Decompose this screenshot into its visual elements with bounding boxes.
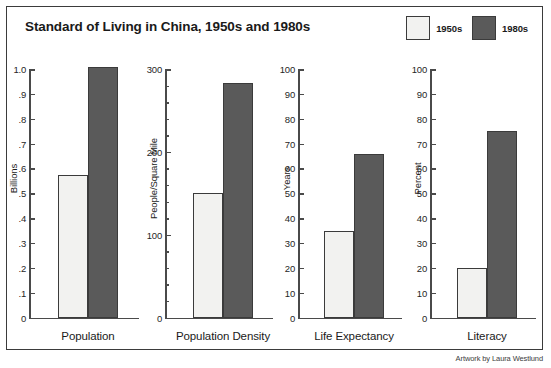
y-tick-label: 30 [417, 237, 427, 248]
category-label: Literacy [427, 330, 547, 343]
y-tick-label: 70 [285, 138, 295, 149]
bar-1950s [58, 175, 88, 318]
x-axis-line [165, 318, 273, 320]
plot-area: 1009080706050403020100 [298, 69, 402, 319]
artwork-credit: Artwork by Laura Westlund [456, 354, 543, 363]
bar-1950s [193, 193, 223, 317]
y-tick-label: 90 [417, 88, 427, 99]
y-tick-label: 40 [417, 213, 427, 224]
bar-1980s [223, 83, 253, 317]
x-axis-line [29, 318, 139, 320]
y-tick-label: 1.0 [13, 64, 26, 75]
y-tick-label: 0 [290, 312, 295, 323]
chart-panel-literacy: Percent 1009080706050403020100 Literacy [410, 49, 544, 349]
y-tick-label: .6 [18, 163, 26, 174]
y-tick-label: .8 [18, 113, 26, 124]
y-tick-label: 80 [285, 113, 295, 124]
bar-group [298, 69, 402, 318]
y-tick-label: 200 [147, 146, 162, 157]
legend-label-1950s: 1950s [436, 23, 462, 34]
legend-item-1950s: 1950s [406, 16, 462, 40]
y-tick-label: 30 [285, 237, 295, 248]
y-tick-label: 50 [417, 188, 427, 199]
y-tick-label: 90 [285, 88, 295, 99]
y-tick-label: 0 [21, 312, 26, 323]
bar-1980s [487, 131, 517, 317]
y-tick-label: 60 [417, 163, 427, 174]
y-tick-label: 80 [417, 113, 427, 124]
y-axis-label: People/Square Mile [147, 49, 161, 307]
y-tick-label: .1 [18, 287, 26, 298]
plot-area: 1009080706050403020100 [430, 69, 536, 319]
y-tick-label: .5 [18, 188, 26, 199]
bar-group [29, 69, 139, 318]
bar-1980s [354, 154, 384, 318]
legend-label-1980s: 1980s [502, 23, 528, 34]
category-label: Population Density [163, 330, 283, 343]
y-tick-label: 40 [285, 213, 295, 224]
y-tick-label: 50 [285, 188, 295, 199]
plot-area: 3002001000 [165, 69, 273, 319]
y-tick-label: 20 [417, 262, 427, 273]
legend-swatch-1980s [472, 16, 496, 40]
category-label: Population [28, 330, 148, 343]
y-tick-label: .2 [18, 262, 26, 273]
chart-frame: Standard of Living in China, 1950s and 1… [6, 6, 543, 350]
chart-panel-population: Billions 1.0.9.8.7.6.5.4.3.2.10 Populati… [7, 49, 147, 349]
y-tick-label: .7 [18, 138, 26, 149]
y-tick-label: .4 [18, 213, 26, 224]
y-tick-label: 10 [417, 287, 427, 298]
bar-group [430, 69, 536, 318]
y-tick-label: 0 [157, 312, 162, 323]
y-tick-label: .3 [18, 237, 26, 248]
y-tick-label: 100 [412, 64, 427, 75]
legend: 1950s 1980s [406, 16, 528, 40]
category-label: Life Expectancy [294, 330, 414, 343]
y-tick-label: 70 [417, 138, 427, 149]
legend-swatch-1950s [406, 16, 430, 40]
y-tick-label: 300 [147, 64, 162, 75]
y-tick-label: 60 [285, 163, 295, 174]
legend-item-1980s: 1980s [472, 16, 528, 40]
charts-row: Billions 1.0.9.8.7.6.5.4.3.2.10 Populati… [7, 49, 544, 349]
y-tick-label: 10 [285, 287, 295, 298]
bar-1980s [88, 67, 118, 318]
chart-header: Standard of Living in China, 1950s and 1… [7, 7, 542, 49]
bar-group [165, 69, 273, 318]
chart-panel-life-expectancy: Years 1009080706050403020100 Life Expect… [280, 49, 410, 349]
bar-1950s [324, 231, 354, 318]
y-tick-label: 0 [422, 312, 427, 323]
y-tick-label: .9 [18, 88, 26, 99]
x-axis-line [430, 318, 536, 320]
bar-1950s [457, 268, 487, 318]
y-tick-label: 100 [147, 229, 162, 240]
y-tick-label: 100 [280, 64, 295, 75]
page-title: Standard of Living in China, 1950s and 1… [25, 19, 310, 34]
chart-panel-population-density: People/Square Mile 3002001000 Population… [147, 49, 280, 349]
plot-area: 1.0.9.8.7.6.5.4.3.2.10 [29, 69, 139, 319]
y-tick-label: 20 [285, 262, 295, 273]
x-axis-line [298, 318, 402, 320]
